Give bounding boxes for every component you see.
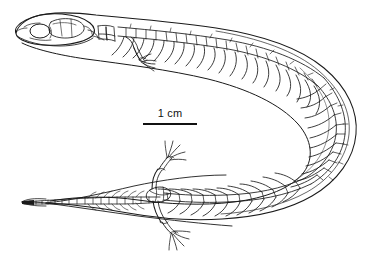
skeleton-illustration bbox=[0, 0, 385, 258]
scale-bar bbox=[143, 123, 197, 125]
figure-container: 1 cm bbox=[0, 0, 385, 258]
scale-bar-label: 1 cm bbox=[143, 107, 197, 120]
